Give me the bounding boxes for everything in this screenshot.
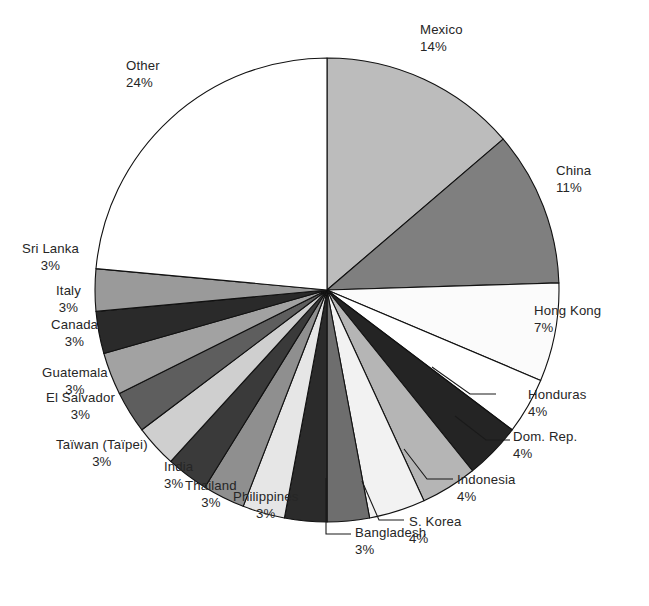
slice-label-name-taiwan: Taïwan (Taïpei) <box>56 437 148 454</box>
slice-label-pct-hongkong: 7% <box>534 320 601 337</box>
slice-label-pct-taiwan: 3% <box>56 454 148 471</box>
pie-chart-figure: Mexico14%China11%Hong Kong7%Honduras4%Do… <box>0 0 649 606</box>
slice-label-name-other: Other <box>126 58 160 75</box>
slice-label-other: Other24% <box>126 58 160 91</box>
slice-label-china: China11% <box>556 163 591 196</box>
slice-label-pct-india: 3% <box>164 476 193 493</box>
slice-label-pct-philippines: 3% <box>233 506 298 523</box>
slice-label-honduras: Honduras4% <box>528 387 586 420</box>
slice-label-domrep: Dom. Rep.4% <box>513 429 577 462</box>
slice-label-pct-other: 24% <box>126 75 160 92</box>
slice-label-bangladesh: Bangladesh3% <box>355 525 426 558</box>
slice-label-pct-china: 11% <box>556 180 591 197</box>
slice-label-pct-thailand: 3% <box>185 495 237 512</box>
slice-label-name-bangladesh: Bangladesh <box>355 525 426 542</box>
slice-label-guatemala: Guatemala3% <box>42 365 108 398</box>
slice-label-philippines: Philippines3% <box>233 489 298 522</box>
slice-label-name-indonesia: Indonesia <box>457 472 516 489</box>
slice-label-pct-honduras: 4% <box>528 404 586 421</box>
slice-label-taiwan: Taïwan (Taïpei)3% <box>56 437 148 470</box>
slice-label-name-hongkong: Hong Kong <box>534 303 601 320</box>
pie-slice-other[interactable] <box>96 58 327 290</box>
slice-label-name-canada: Canada <box>51 317 98 334</box>
slice-label-pct-italy: 3% <box>56 300 81 317</box>
slice-label-pct-guatemala: 3% <box>42 382 108 399</box>
slice-label-name-guatemala: Guatemala <box>42 365 108 382</box>
slice-label-india: India3% <box>164 459 193 492</box>
slice-label-pct-elsalvador: 3% <box>46 407 115 424</box>
slice-label-srilanka: Sri Lanka3% <box>22 241 79 274</box>
slice-label-pct-indonesia: 4% <box>457 489 516 506</box>
slice-label-hongkong: Hong Kong7% <box>534 303 601 336</box>
slice-label-name-srilanka: Sri Lanka <box>22 241 79 258</box>
slice-label-mexico: Mexico14% <box>420 22 463 55</box>
slice-label-canada: Canada3% <box>51 317 98 350</box>
slice-label-pct-domrep: 4% <box>513 446 577 463</box>
slice-label-name-china: China <box>556 163 591 180</box>
slice-label-indonesia: Indonesia4% <box>457 472 516 505</box>
slice-label-pct-mexico: 14% <box>420 39 463 56</box>
slice-label-name-philippines: Philippines <box>233 489 298 506</box>
slice-label-name-india: India <box>164 459 193 476</box>
slice-label-name-honduras: Honduras <box>528 387 586 404</box>
slice-label-name-mexico: Mexico <box>420 22 463 39</box>
slice-label-name-italy: Italy <box>56 283 81 300</box>
slice-label-pct-srilanka: 3% <box>22 258 79 275</box>
slice-label-italy: Italy3% <box>56 283 81 316</box>
pie-slices-group <box>95 58 559 522</box>
slice-label-pct-canada: 3% <box>51 334 98 351</box>
slice-label-pct-bangladesh: 3% <box>355 542 426 559</box>
slice-label-name-domrep: Dom. Rep. <box>513 429 577 446</box>
